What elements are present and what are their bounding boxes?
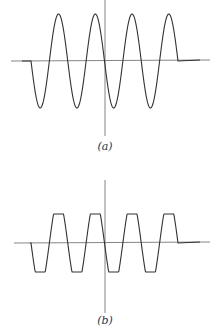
panel-b-label: (b) — [97, 314, 113, 327]
panel-a-label: (a) — [97, 140, 112, 153]
panel-a-axes — [11, 0, 210, 136]
figure-canvas — [0, 0, 221, 330]
panel-b-axes — [14, 180, 210, 313]
